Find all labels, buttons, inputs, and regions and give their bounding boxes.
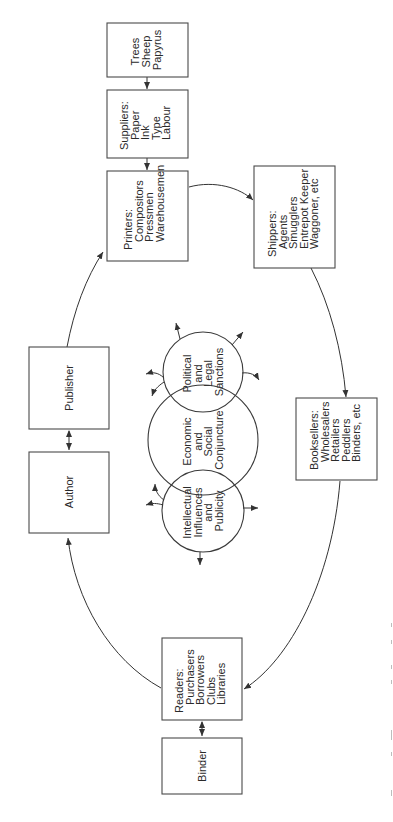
node-printers: Printers: Compositors Pressmen Warehouse… bbox=[107, 165, 188, 261]
svg-text:Author: Author bbox=[63, 475, 75, 508]
node-trees: Trees Sheep Papyrus bbox=[107, 23, 188, 77]
node-booksellers: Booksellers: Wholesalers Retailers Peddl… bbox=[296, 398, 377, 480]
arrow-shippers-to-booksellers bbox=[311, 268, 346, 397]
arrow-readers-to-author bbox=[68, 538, 161, 688]
svg-text:Economic and Socia: Economic and Social Conjuncture bbox=[181, 410, 225, 469]
svg-text:Binder: Binder bbox=[196, 750, 208, 782]
node-readers: Readers: Purchasers Borrowers Clubs Libr… bbox=[162, 638, 242, 720]
svg-text:Political and Lega: Political and Legal Sanctions bbox=[181, 347, 225, 396]
arrow-booksellers-to-readers bbox=[244, 481, 340, 689]
arrow-printers-to-shippers bbox=[189, 184, 253, 200]
svg-text:Publisher: Publisher bbox=[63, 365, 75, 411]
node-suppliers: Suppliers: Paper Ink Type Labour bbox=[107, 90, 188, 158]
node-shippers: Shippers: Agents Smugglers Entrepot Keep… bbox=[254, 166, 335, 268]
cropped-caption-fragments bbox=[391, 623, 392, 796]
node-binder: Binder bbox=[162, 738, 242, 794]
node-publisher: Publisher bbox=[29, 347, 109, 429]
circle-intellectual-influences-publicity: Intellectual Influences and Publicity bbox=[162, 470, 244, 552]
circle-economic-social-conjuncture: Economic and Social Conjuncture bbox=[148, 385, 258, 495]
svg-text:Trees Sheep Papyru: Trees Sheep Papyrus bbox=[129, 29, 163, 70]
node-author: Author bbox=[29, 452, 109, 533]
circle-political-legal-sanctions: Political and Legal Sanctions bbox=[163, 332, 243, 412]
arrow-publisher-to-printers bbox=[67, 252, 103, 347]
communications-circuit-diagram: Trees Sheep Papyrus Suppliers: Paper Ink… bbox=[0, 0, 393, 822]
svg-text:Intellectual Influences: Intellectual Influences and Publicity bbox=[181, 483, 225, 539]
